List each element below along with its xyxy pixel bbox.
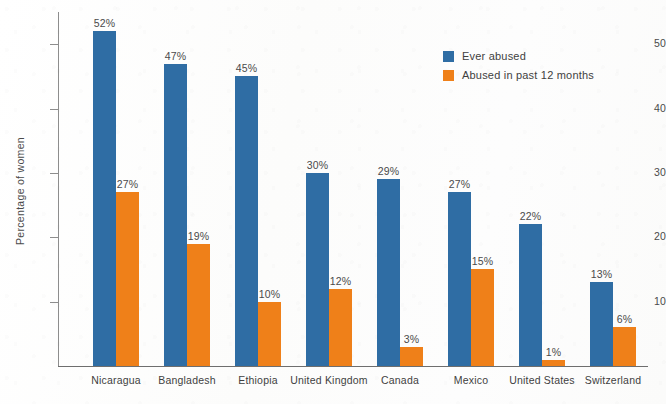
bar-group: 13%6%	[590, 12, 636, 366]
legend-item-ever-abused: Ever abused	[443, 50, 594, 62]
legend-label-ever-abused: Ever abused	[462, 50, 526, 62]
bar-value-label: 3%	[404, 333, 420, 345]
legend-swatch-icon-ever-abused	[443, 51, 454, 62]
bar-past-12-months[interactable]: 19%	[187, 244, 210, 366]
y-axis-tick-mark	[50, 44, 58, 45]
bar-ever-abused[interactable]: 13%	[590, 282, 613, 366]
bar-ever-abused[interactable]: 30%	[306, 173, 329, 366]
bar-past-12-months[interactable]: 10%	[258, 302, 281, 366]
bar-group: 47%19%	[164, 12, 210, 366]
bar-value-label: 27%	[449, 178, 471, 190]
bar-ever-abused[interactable]: 27%	[448, 192, 471, 366]
y-axis-tick-mark	[50, 109, 58, 110]
bar-value-label: 15%	[472, 255, 494, 267]
bar-value-label: 27%	[117, 178, 139, 190]
bar-value-label: 29%	[378, 165, 400, 177]
bar-ever-abused[interactable]: 22%	[519, 224, 542, 366]
bar-ever-abused[interactable]: 45%	[235, 76, 258, 366]
bar-value-label: 30%	[307, 159, 329, 171]
bar-past-12-months[interactable]: 27%	[116, 192, 139, 366]
legend-item-past-12-months: Abused in past 12 months	[443, 69, 594, 81]
legend-label-past-12-months: Abused in past 12 months	[462, 69, 594, 81]
bar-ever-abused[interactable]: 47%	[164, 64, 187, 367]
bar-value-label: 47%	[165, 50, 187, 62]
bar-group: 29%3%	[377, 12, 423, 366]
legend-swatch-icon-past-12-months	[443, 70, 454, 81]
bar-value-label: 10%	[259, 288, 281, 300]
bar-group: 52%27%	[93, 12, 139, 366]
y-axis-tick-mark	[50, 302, 58, 303]
y-axis-title: Percentage of women	[14, 111, 26, 271]
bar-value-label: 19%	[188, 230, 210, 242]
bar-group: 45%10%	[235, 12, 281, 366]
bar-value-label: 6%	[617, 313, 633, 325]
y-axis-tick-mark	[50, 237, 58, 238]
bar-past-12-months[interactable]: 6%	[613, 327, 636, 366]
bar-ever-abused[interactable]: 52%	[93, 31, 116, 366]
bar-past-12-months[interactable]: 12%	[329, 289, 352, 366]
y-axis-tick-mark	[50, 173, 58, 174]
grouped-bar-chart: Percentage of women 1020304050 52%27%47%…	[0, 0, 666, 404]
chart-legend: Ever abused Abused in past 12 months	[443, 50, 594, 88]
x-axis-line	[58, 366, 648, 367]
bar-value-label: 52%	[94, 17, 116, 29]
bar-past-12-months[interactable]: 3%	[400, 347, 423, 366]
bar-past-12-months[interactable]: 1%	[542, 360, 565, 366]
bar-ever-abused[interactable]: 29%	[377, 179, 400, 366]
bar-value-label: 22%	[520, 210, 542, 222]
bar-value-label: 1%	[546, 346, 562, 358]
bar-value-label: 13%	[591, 268, 613, 280]
bar-past-12-months[interactable]: 15%	[471, 269, 494, 366]
bar-group: 30%12%	[306, 12, 352, 366]
bar-value-label: 12%	[330, 275, 352, 287]
x-axis-label-switzerland: Switzerland	[565, 374, 661, 386]
bar-value-label: 45%	[236, 62, 258, 74]
